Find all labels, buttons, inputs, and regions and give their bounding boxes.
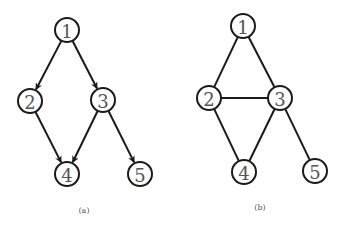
undirected-graph-b: 12345(b) — [197, 14, 327, 212]
edge-3-5 — [108, 111, 134, 163]
node-3: 3 — [268, 86, 292, 110]
directed-graph-a: 12345(a) — [18, 18, 152, 215]
node-label: 3 — [97, 91, 108, 112]
node-1: 1 — [55, 18, 79, 42]
node-3: 3 — [91, 88, 115, 112]
node-4: 4 — [232, 160, 256, 184]
node-1: 1 — [231, 14, 255, 38]
edge-2-4 — [214, 109, 239, 161]
edge-1-3 — [248, 37, 274, 88]
edge-1-2 — [214, 37, 238, 87]
edge-2-4 — [35, 112, 61, 163]
edge-1-2 — [36, 41, 61, 90]
graph-figure: 12345(a) 12345(b) — [0, 0, 344, 227]
edge-3-5 — [285, 109, 310, 160]
node-label: 2 — [203, 89, 214, 110]
node-label: 1 — [237, 17, 248, 38]
node-label: 5 — [309, 162, 320, 183]
node-5: 5 — [128, 162, 152, 186]
subfigure-caption: (a) — [78, 206, 89, 215]
edge-1-3 — [72, 41, 97, 89]
node-2: 2 — [197, 86, 221, 110]
node-4: 4 — [55, 162, 79, 186]
node-label: 1 — [61, 21, 72, 42]
node-label: 3 — [274, 89, 285, 110]
subfigure-caption: (b) — [254, 203, 265, 212]
node-label: 2 — [24, 92, 35, 113]
node-label: 4 — [61, 165, 72, 186]
node-2: 2 — [18, 89, 42, 113]
edge-3-4 — [73, 111, 98, 163]
node-label: 4 — [238, 163, 249, 184]
node-label: 5 — [134, 165, 145, 186]
node-5: 5 — [303, 159, 327, 183]
edge-3-4 — [249, 109, 275, 161]
